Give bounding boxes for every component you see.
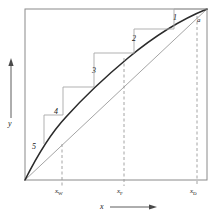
tick-label-xF-sub: F (120, 191, 123, 196)
stage-label-2: 2 (132, 35, 136, 43)
stage-staircase (44, 9, 207, 144)
diagonal-45-line (25, 9, 207, 180)
y-axis-arrow (8, 58, 13, 118)
chart-svg (0, 0, 221, 216)
tick-label-xD: xD (190, 188, 197, 196)
stage-step-5 (44, 115, 63, 144)
tick-label-xW: xW (55, 188, 63, 196)
stage-step-2 (134, 29, 174, 53)
tick-label-xD-sub: D (193, 191, 197, 196)
stage-label-3: 3 (92, 67, 96, 75)
annotation-label-a: a (197, 17, 201, 24)
stage-label-1: 1 (173, 14, 177, 22)
x-axis-arrow (110, 204, 157, 209)
stage-label-4: 4 (54, 108, 58, 116)
x-axis-label: x (100, 203, 104, 211)
stage-label-5: 5 (32, 143, 36, 151)
stage-step-1 (174, 9, 207, 29)
tick-label-xF: xF (117, 188, 123, 196)
distillation-stage-chart: 1 2 3 4 5 a xW xF xD x y (0, 0, 221, 216)
tick-label-xW-sub: W (58, 191, 63, 196)
stage-step-4 (63, 87, 94, 115)
y-axis-label: y (8, 120, 12, 128)
reference-lines (62, 16, 197, 186)
